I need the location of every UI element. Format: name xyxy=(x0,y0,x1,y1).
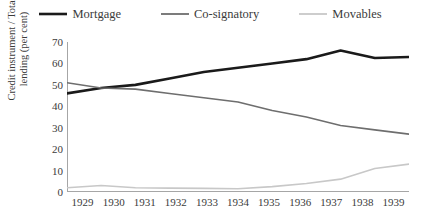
x-axis-tick-1933: 1933 xyxy=(191,196,222,209)
legend-item-mortgage[interactable]: Mortgage xyxy=(39,8,121,21)
y-axis-tick-0: 0 xyxy=(58,187,64,198)
x-axis-tick-1934: 1934 xyxy=(222,196,253,209)
y-axis-tick-60: 60 xyxy=(52,58,63,69)
chart-figure: Mortgage Co-signatory Movables Credit in… xyxy=(0,0,421,223)
x-axis-tick-1938: 1938 xyxy=(347,196,378,209)
legend-label-movables: Movables xyxy=(332,8,381,21)
y-axis-tick-labels: 706050403020100 xyxy=(38,42,63,192)
series-line-mortgage xyxy=(67,51,409,94)
legend-line-swatch-movables xyxy=(299,9,327,19)
x-axis-tick-1931: 1931 xyxy=(129,196,160,209)
chart-legend: Mortgage Co-signatory Movables xyxy=(0,4,421,24)
y-axis-tick-30: 30 xyxy=(52,122,63,133)
legend-line-swatch-mortgage xyxy=(39,9,67,19)
y-axis-tick-50: 50 xyxy=(52,79,63,90)
series-line-movables xyxy=(67,164,409,189)
y-axis-tick-10: 10 xyxy=(52,165,63,176)
legend-label-co-signatory: Co-signatory xyxy=(194,8,259,21)
series-lines xyxy=(67,42,409,192)
legend-item-movables[interactable]: Movables xyxy=(299,8,381,21)
x-axis-tick-1930: 1930 xyxy=(98,196,129,209)
y-axis-tick-70: 70 xyxy=(52,37,63,48)
x-axis-tick-1929: 1929 xyxy=(67,196,98,209)
x-axis-tick-1932: 1932 xyxy=(160,196,191,209)
x-axis-tick-1936: 1936 xyxy=(285,196,316,209)
series-line-co-signatory xyxy=(67,83,409,134)
x-axis-tick-1939: 1939 xyxy=(378,196,409,209)
legend-item-co-signatory[interactable]: Co-signatory xyxy=(161,8,259,21)
legend-line-swatch-co-signatory xyxy=(161,9,189,19)
legend-label-mortgage: Mortgage xyxy=(72,8,121,21)
y-axis-tick-40: 40 xyxy=(52,101,63,112)
plot-area xyxy=(67,42,409,192)
x-axis-tick-1935: 1935 xyxy=(254,196,285,209)
x-axis-tick-1937: 1937 xyxy=(316,196,347,209)
x-axis-tick-labels: 1929193019311932193319341935193619371938… xyxy=(67,196,409,214)
y-axis-tick-20: 20 xyxy=(52,144,63,155)
